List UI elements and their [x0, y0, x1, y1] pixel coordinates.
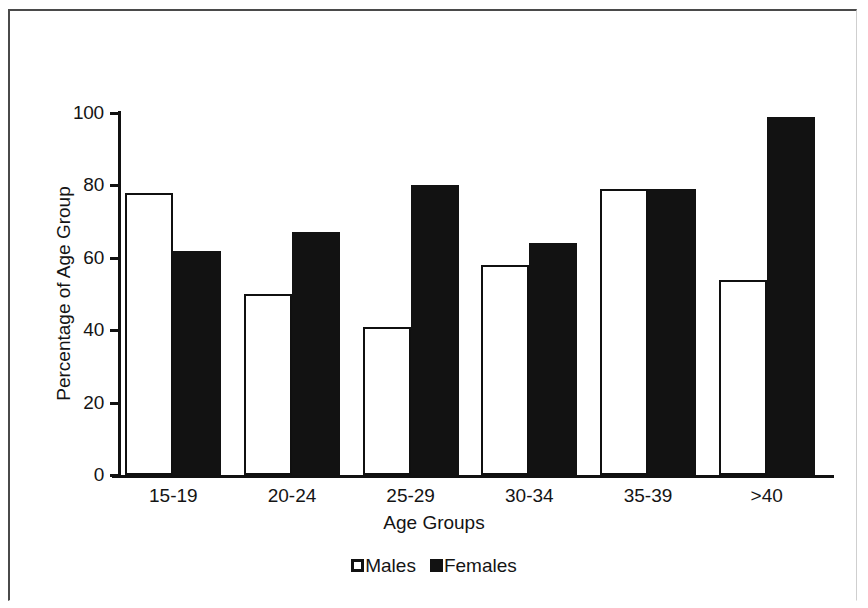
bar-group	[244, 113, 340, 475]
y-axis-title: Percentage of Age Group	[54, 129, 73, 459]
bar-males-1519	[125, 193, 173, 475]
bar-group	[363, 113, 459, 475]
y-axis-tick	[110, 402, 118, 405]
plot-area	[118, 113, 830, 475]
bar-males-40	[719, 280, 767, 475]
bar-females-1519	[173, 251, 221, 475]
y-axis-tick	[110, 474, 118, 477]
x-axis-tick-label: 25-29	[351, 486, 470, 505]
legend-swatch-females-icon	[430, 559, 443, 572]
chart-figure: 020406080100 Percentage of Age Group 15-…	[0, 0, 868, 608]
x-axis-line	[112, 475, 834, 478]
y-axis-tick	[110, 184, 118, 187]
bar-males-2529	[363, 327, 411, 475]
y-axis-tick-label: 100	[44, 103, 104, 122]
x-axis-tick-label: 15-19	[114, 486, 233, 505]
bar-group	[719, 113, 815, 475]
y-axis-tick	[110, 257, 118, 260]
x-axis-tick-label: 35-39	[589, 486, 708, 505]
y-axis-tick-label: 0	[44, 465, 104, 484]
bar-group	[481, 113, 577, 475]
bar-group	[125, 113, 221, 475]
x-axis-title: Age Groups	[0, 513, 868, 532]
legend-label: Males	[365, 556, 416, 575]
bar-females-2529	[411, 185, 459, 475]
y-axis-title-wrapper: Percentage of Age Group	[0, 0, 1, 1]
bar-males-3539	[600, 189, 648, 475]
bar-females-2024	[292, 232, 340, 475]
legend-swatch-males-icon	[351, 559, 364, 572]
x-axis-tick-label: >40	[707, 486, 826, 505]
bar-males-2024	[244, 294, 292, 475]
bar-group	[600, 113, 696, 475]
bar-females-40	[767, 117, 815, 475]
y-axis-tick	[110, 329, 118, 332]
y-axis-tick	[110, 112, 118, 115]
bar-females-3034	[529, 243, 577, 475]
bar-females-3539	[648, 189, 696, 475]
legend-label: Females	[444, 556, 517, 575]
chart-legend: MalesFemales	[0, 556, 868, 575]
x-axis-tick-label: 30-34	[470, 486, 589, 505]
x-axis-tick-label: 20-24	[233, 486, 352, 505]
legend-entry-females: Females	[430, 556, 517, 575]
bar-males-3034	[481, 265, 529, 475]
legend-entry-males: Males	[351, 556, 416, 575]
